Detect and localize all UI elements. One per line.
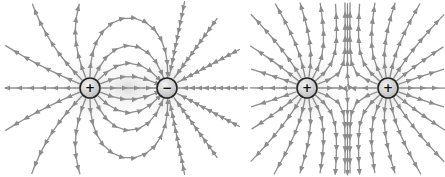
plus-sign-icon: +: [383, 81, 393, 95]
plus-sign-icon: +: [302, 81, 312, 95]
dipole-field-lines: [5, 1, 248, 175]
right-positive-charge: +: [378, 78, 398, 98]
minus-sign-icon: −: [162, 81, 172, 95]
field-lines-canvas: + − + +: [0, 0, 445, 177]
electric-field-figure: + − + +: [0, 0, 445, 177]
left-positive-charge: +: [297, 78, 317, 98]
plus-sign-icon: +: [85, 81, 95, 95]
dipole-negative-charge: −: [157, 78, 177, 98]
dipole-positive-charge: +: [80, 78, 100, 98]
